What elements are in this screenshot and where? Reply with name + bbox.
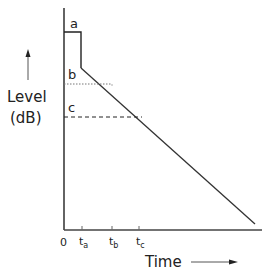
x-arrow-head-icon (229, 260, 238, 265)
tick-label-ta: ta (79, 235, 88, 250)
tick-tb-sub: b (113, 241, 118, 250)
level-b-label: b (68, 67, 76, 82)
level-a-label: a (70, 16, 78, 31)
level-c-label: c (68, 100, 75, 115)
decay-line (81, 68, 255, 224)
level-a-step (64, 32, 81, 68)
tick-label-tc: tc (136, 235, 145, 250)
tick-label-tb: tb (109, 235, 118, 250)
y-axis-label-level: Level (7, 88, 47, 106)
y-axis-label-unit: (dB) (10, 109, 42, 127)
tick-tc-sub: c (140, 241, 144, 250)
x-axis-label: Time (145, 253, 182, 271)
tick-label-zero: 0 (60, 236, 67, 249)
tick-ta-sub: a (83, 241, 88, 250)
y-arrow-head-icon (26, 49, 31, 57)
